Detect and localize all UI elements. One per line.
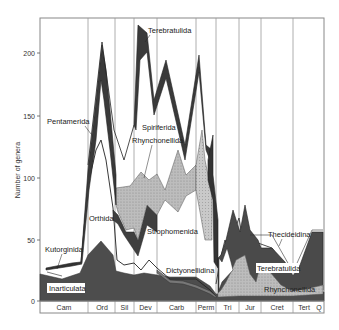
label-orthida: Orthida <box>89 214 114 223</box>
period-label-q: Q <box>316 304 322 312</box>
y-axis-label: Number of genera <box>14 142 22 199</box>
label-dictyonellidina: Dictyonellidina <box>166 266 215 275</box>
y-tick-0: 0 <box>31 298 35 305</box>
period-label-dev: Dev <box>139 304 152 311</box>
label-pentamerida: Pentamerida <box>47 117 90 126</box>
y-tick-100: 100 <box>23 175 35 182</box>
y-tick-150: 150 <box>23 113 35 120</box>
brachiopod-diversity-chart: 0 50 100 150 200 Number of genera Cam Or… <box>0 0 339 330</box>
y-tick-200: 200 <box>23 50 35 57</box>
label-thecideidina: Thecideidina <box>268 230 311 239</box>
y-tick-50: 50 <box>27 237 35 244</box>
label-terebratulida-bottom: Terebratulida <box>257 264 301 273</box>
period-label-cret: Cret <box>270 304 283 311</box>
label-rhynchonellida-top: Rhynchonellida <box>132 136 184 145</box>
label-kutorginida: Kutorginida <box>45 245 84 254</box>
label-rhynchonellida-bottom: Rhynchonellida <box>264 285 316 294</box>
period-label-carb: Carb <box>169 304 184 311</box>
period-label-perm: Perm <box>198 304 215 311</box>
label-strophomenida: Strophomenida <box>147 227 199 236</box>
period-label-sil: Sil <box>121 304 129 311</box>
period-label-tert: Tert <box>298 304 310 311</box>
period-label-tri: Tri <box>224 304 232 311</box>
label-spiriferida: Spiriferida <box>142 123 177 132</box>
period-label-cam: Cam <box>57 304 72 311</box>
period-label-ord: Ord <box>96 304 108 311</box>
period-label-jur: Jur <box>245 304 255 311</box>
label-terebratulida-top: Terebratulida <box>148 26 192 35</box>
label-inarticulata: Inarticulata <box>49 284 87 293</box>
